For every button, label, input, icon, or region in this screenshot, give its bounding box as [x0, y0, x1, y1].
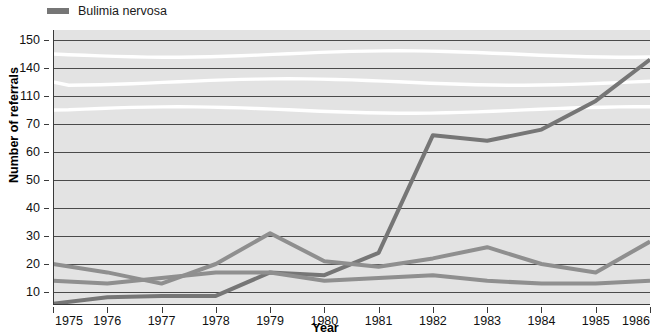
x-axis-tick-mark	[541, 307, 542, 313]
x-axis-tick-mark	[324, 307, 325, 313]
x-axis-tick-mark	[53, 307, 54, 313]
y-axis-tick-mark	[44, 68, 49, 69]
chart-figure: Bulimia nervosa Number of referrals 1501…	[0, 0, 651, 336]
x-axis-tick-mark	[433, 307, 434, 313]
y-axis-tick-mark	[44, 208, 49, 209]
y-axis-tick-mark	[44, 264, 49, 265]
y-axis-tick-label: 140	[19, 61, 40, 75]
y-axis-tick-label: 50	[26, 173, 40, 187]
y-axis-tick-label: 10	[26, 285, 40, 299]
y-axis-tick-mark	[44, 96, 49, 97]
y-axis-tick-label: 20	[26, 257, 40, 271]
y-axis-tick-mark	[44, 180, 49, 181]
axis-break-mark	[53, 79, 650, 85]
plot-area	[53, 30, 650, 305]
y-axis-tick-label: 30	[26, 229, 40, 243]
y-axis-tick-label: 110	[20, 89, 40, 103]
y-axis-tick-mark	[44, 40, 49, 41]
y-axis-tick-mark	[44, 124, 49, 125]
y-axis-tick-label: 40	[26, 201, 40, 215]
y-axis-tick-label: 60	[26, 145, 40, 159]
axis-break-mark	[53, 51, 650, 57]
x-axis-tick-mark	[107, 307, 108, 313]
y-axis-tick-mark	[44, 236, 49, 237]
x-axis-title: Year	[0, 321, 651, 335]
y-axis-ticks: 15014011070605040302010	[0, 30, 49, 305]
series-line	[53, 272, 650, 283]
y-axis-tick-label: 70	[26, 117, 40, 131]
x-axis-tick-mark	[162, 307, 163, 313]
axis-break-mark	[53, 107, 650, 113]
y-axis-tick-mark	[44, 292, 49, 293]
chart-legend: Bulimia nervosa	[47, 0, 167, 22]
plot-svg	[53, 30, 650, 305]
y-axis-tick-label: 150	[19, 33, 40, 47]
x-axis-tick-mark	[379, 307, 380, 313]
x-axis-tick-mark	[596, 307, 597, 313]
series-line	[53, 233, 650, 283]
y-axis-tick-mark	[44, 152, 49, 153]
legend-swatch-icon	[47, 8, 69, 14]
x-axis-tick-mark	[270, 307, 271, 313]
legend-item-label: Bulimia nervosa	[78, 5, 167, 18]
x-axis-tick-mark	[216, 307, 217, 313]
x-axis-tick-mark	[487, 307, 488, 313]
